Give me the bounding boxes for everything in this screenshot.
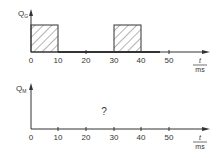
question-mark: ? (101, 106, 107, 117)
y-arrow-icon (29, 9, 33, 16)
pulse-2 (114, 25, 141, 52)
bottom-chart: QM ? 0 10 20 30 40 50 t ms (16, 83, 210, 150)
svg-text:10: 10 (54, 56, 63, 65)
svg-text:0: 0 (29, 56, 34, 65)
svg-text:50: 50 (165, 133, 174, 142)
tick-labels: 0 10 20 30 40 50 (29, 56, 174, 65)
x-label-den: ms (195, 143, 205, 150)
svg-text:0: 0 (29, 133, 34, 142)
diagram: QG 0 10 20 30 40 50 t ms QM ? 0 10 20 30 (0, 0, 217, 158)
svg-text:50: 50 (165, 56, 174, 65)
y-label: QG (18, 9, 28, 19)
top-chart: QG 0 10 20 30 40 50 t ms (18, 9, 210, 73)
svg-text:40: 40 (137, 56, 146, 65)
svg-text:20: 20 (82, 133, 91, 142)
svg-text:40: 40 (137, 133, 146, 142)
x-arrow-icon (202, 127, 210, 131)
y-arrow-icon (29, 83, 33, 90)
pulse-1 (31, 25, 58, 52)
svg-text:20: 20 (82, 56, 91, 65)
x-label-num: t (199, 134, 202, 141)
svg-text:30: 30 (110, 56, 119, 65)
x-label-num: t (199, 57, 202, 64)
svg-text:10: 10 (54, 133, 63, 142)
x-arrow-icon (202, 50, 210, 54)
svg-text:30: 30 (110, 133, 119, 142)
tick-labels: 0 10 20 30 40 50 (29, 133, 174, 142)
y-label: QM (16, 84, 26, 94)
x-label-den: ms (195, 66, 205, 73)
